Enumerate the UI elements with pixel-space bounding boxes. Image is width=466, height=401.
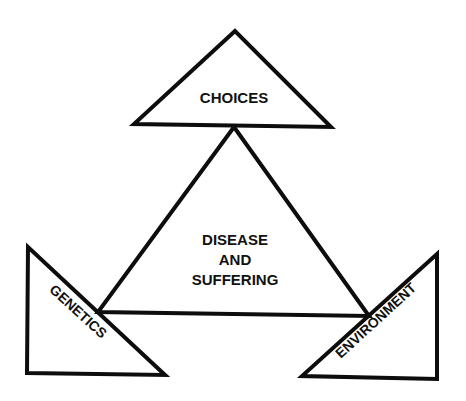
center-label-line-1: DISEASE: [202, 231, 268, 248]
choices-label: CHOICES: [200, 89, 268, 106]
disease-center-node: DISEASE AND SUFFERING: [98, 127, 369, 316]
center-label-line-2: AND: [219, 251, 252, 268]
disease-factors-diagram: CHOICES GENETICS ENVIRONMENT DISEASE AND…: [0, 0, 466, 401]
center-label-line-3: SUFFERING: [192, 271, 279, 288]
choices-triangle: [134, 31, 331, 127]
choices-node: CHOICES: [134, 31, 331, 127]
